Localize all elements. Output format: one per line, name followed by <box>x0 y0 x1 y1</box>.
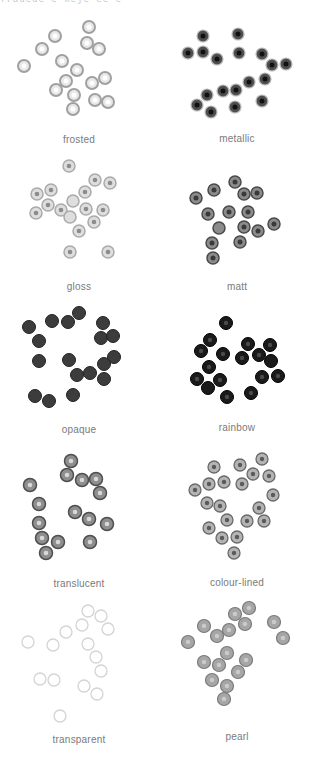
swatch-label: gloss <box>0 281 158 292</box>
swatch-label: translucent <box>0 578 158 589</box>
swatch-opaque: opaque <box>0 300 158 445</box>
bead-cluster-colour-lined-image <box>158 445 316 575</box>
swatch-label: frosted <box>0 134 158 145</box>
bead-cluster-opaque-image <box>0 300 158 425</box>
clipped-header-text: fradede e keje ee e <box>0 0 200 6</box>
swatch-transparent: transparent <box>0 600 158 758</box>
bead-cluster-transparent-image <box>0 600 158 735</box>
bead-cluster-frosted-image <box>0 20 158 135</box>
swatch-label: pearl <box>158 731 316 742</box>
bead-cluster-translucent-image <box>0 445 158 575</box>
swatch-label: metallic <box>158 133 316 144</box>
bead-cluster-pearl-image <box>158 600 316 735</box>
bead-cluster-metallic-image <box>158 20 316 135</box>
swatch-label: matt <box>158 281 316 292</box>
swatch-label: colour-lined <box>158 577 316 588</box>
swatch-frosted: frosted <box>0 20 158 150</box>
swatch-colour-lined: colour-lined <box>158 445 316 600</box>
swatch-label: transparent <box>0 734 158 745</box>
swatch-translucent: translucent <box>0 445 158 600</box>
swatch-metallic: metallic <box>158 20 316 150</box>
bead-cluster-rainbow-image <box>158 300 316 425</box>
swatch-rainbow: rainbow <box>158 300 316 445</box>
swatch-matt: matt <box>158 150 316 300</box>
swatch-label: rainbow <box>158 422 316 433</box>
swatch-label: opaque <box>0 424 158 435</box>
swatch-gloss: gloss <box>0 150 158 300</box>
bead-cluster-gloss-image <box>0 150 158 275</box>
swatch-pearl: pearl <box>158 600 316 758</box>
bead-cluster-matt-image <box>158 150 316 275</box>
